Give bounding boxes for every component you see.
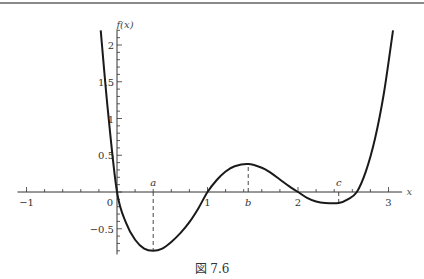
function-plot: −10123x−0.50.511.52f(x)abc — [0, 0, 424, 279]
y-tick-label: −0.5 — [90, 224, 114, 235]
annotation-label-c: c — [336, 177, 342, 188]
x-axis-label: x — [407, 186, 413, 197]
x-tick-label: 3 — [385, 197, 391, 208]
y-axis-label: f(x) — [115, 19, 133, 30]
annotation-label-b: b — [245, 197, 251, 208]
x-tick-label: 2 — [295, 197, 301, 208]
figure-caption: 図 7.6 — [0, 259, 424, 276]
x-tick-label: −1 — [19, 197, 34, 208]
x-tick-label: 1 — [204, 197, 210, 208]
annotation-label-a: a — [150, 177, 156, 188]
y-tick-label: 2 — [108, 40, 114, 51]
x-tick-label: 0 — [107, 197, 113, 208]
function-curve — [101, 30, 393, 251]
